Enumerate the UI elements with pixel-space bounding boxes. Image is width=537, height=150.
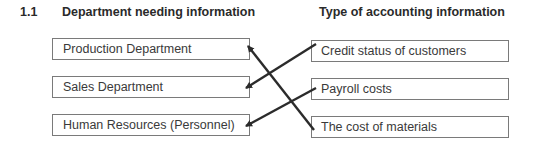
arrow-credit-to-sales [246, 44, 316, 88]
arrow-materials-to-production [248, 46, 314, 130]
connection-arrows [0, 0, 537, 150]
